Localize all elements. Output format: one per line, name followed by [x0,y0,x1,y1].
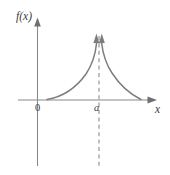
x-axis-label: x [155,104,160,116]
y-axis-label: f(x) [16,11,32,23]
asymptote-label-a: a [94,103,99,114]
curve-right-branch [102,43,141,100]
curve-left-branch [47,43,97,100]
function-graph-figure: f(x) x 0 a [0,0,170,175]
graph-canvas [0,0,170,175]
origin-label: 0 [35,103,40,114]
y-axis-arrowhead [34,18,41,27]
curve-right-branch-arrowhead [99,34,105,44]
